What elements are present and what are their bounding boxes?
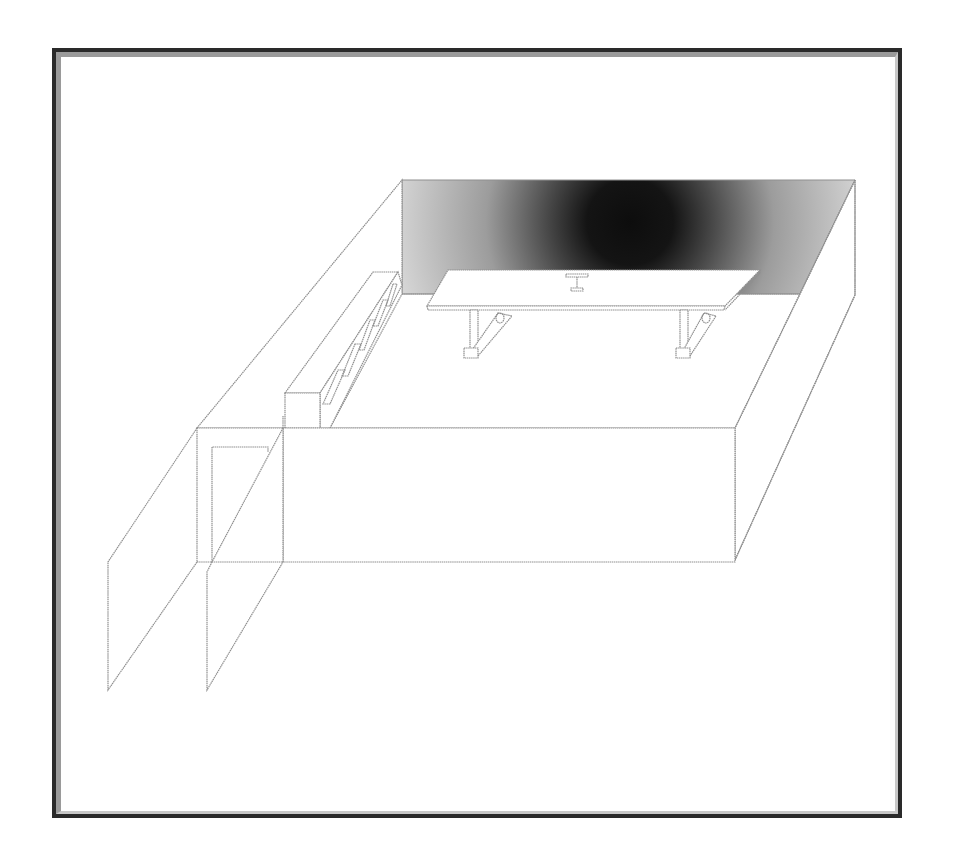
floor — [330, 294, 800, 428]
front-wall — [283, 428, 735, 562]
table-leg-right — [676, 310, 716, 358]
left-wall-panel — [108, 428, 197, 690]
table-leg-left — [464, 310, 512, 358]
doorway — [197, 416, 283, 562]
room-scene — [0, 0, 954, 853]
table — [427, 270, 760, 358]
open-door-panel — [207, 562, 283, 690]
